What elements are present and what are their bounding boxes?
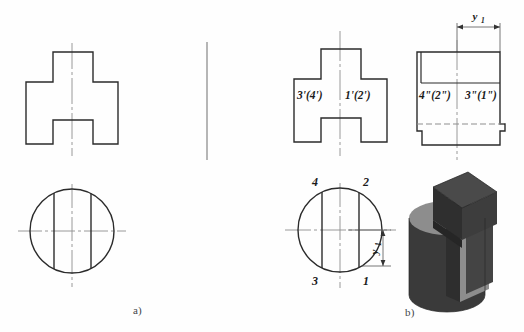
label-3prime-4prime: 3'(4') — [296, 89, 323, 102]
side-dim-text-y-subscript: 1 — [481, 16, 485, 25]
middle-top-view: 4 2 3 1 y 1 — [285, 175, 396, 288]
label-1prime-2prime: 1'(2') — [345, 89, 371, 102]
caption-a: a) — [133, 304, 142, 316]
point-label-3: 3 — [311, 274, 318, 288]
point-label-2: 2 — [362, 175, 369, 189]
side-dim-text-y-symbol: y — [471, 10, 478, 22]
solid-model-3d — [409, 172, 497, 312]
point-label-1: 1 — [363, 274, 369, 288]
left-top-view — [18, 184, 126, 287]
technical-drawing-svg: 3'(4') 1'(2') 4 2 3 1 y 1 — [0, 0, 524, 332]
middle-front-view: 3'(4') 1'(2') — [294, 31, 387, 156]
point-label-4: 4 — [311, 175, 318, 189]
label-4dprime-2dprime: 4"(2") — [418, 89, 451, 102]
figure-container: 3'(4') 1'(2') 4 2 3 1 y 1 — [0, 0, 524, 332]
dim-text-y-symbol: y — [368, 249, 380, 256]
caption-b: b) — [405, 306, 415, 318]
label-3dprime-1dprime: 3"(1") — [464, 89, 497, 102]
left-front-view — [26, 43, 118, 156]
side-dim-arrow-right — [494, 25, 500, 30]
dim-text-y-subscript: 1 — [374, 242, 383, 246]
dim-arrow-down — [381, 260, 386, 266]
side-dim-arrow-left — [457, 25, 463, 30]
right-side-view: y 1 4"(2") 3"(1") — [417, 10, 505, 160]
right-side-dimension-y1: y 1 — [457, 10, 500, 52]
